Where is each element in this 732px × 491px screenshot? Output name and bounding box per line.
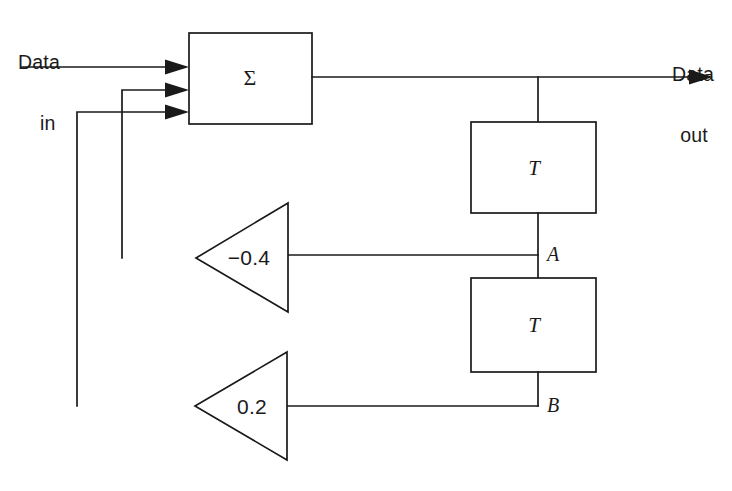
output-label-line2: out (594, 125, 714, 145)
output-label: Data out (594, 23, 714, 187)
feedback-wire-lower (77, 105, 189, 407)
gain-lower-label: 0.2 (237, 396, 267, 418)
signal-flow-diagram: Data in Data out Σ T T −0.4 0.2 A B (0, 0, 732, 491)
gain-upper-label: −0.4 (228, 247, 271, 269)
node-a-label: A (547, 244, 559, 265)
node-b-label: B (547, 395, 559, 416)
node-b-wires (287, 372, 538, 406)
feedback-upper-arrowhead (165, 83, 189, 98)
delay-block-1-label: T (528, 157, 540, 179)
input-arrowhead (165, 60, 189, 75)
input-label: Data in (18, 11, 60, 175)
node-a-wires (288, 213, 538, 278)
feedback-lower-arrowhead (165, 105, 189, 120)
output-label-line1: Data (594, 64, 714, 84)
feedback-wire-upper (122, 83, 189, 259)
input-label-line1: Data (18, 52, 60, 72)
summer-label: Σ (244, 66, 257, 89)
delay-block-2-label: T (528, 314, 540, 336)
input-label-line2: in (18, 113, 60, 133)
